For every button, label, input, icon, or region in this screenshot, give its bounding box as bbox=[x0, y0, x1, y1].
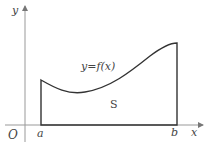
a-label: a bbox=[37, 128, 44, 139]
area-under-curve-diagram: y O a b x y=f(x) S bbox=[0, 0, 207, 147]
diagram-canvas bbox=[0, 0, 207, 147]
origin-label: O bbox=[8, 129, 18, 141]
b-label: b bbox=[171, 127, 178, 138]
x-axis-label: x bbox=[191, 127, 197, 138]
function-label: y=f(x) bbox=[81, 61, 115, 72]
region-s-boundary bbox=[41, 43, 177, 125]
y-axis-label: y bbox=[12, 5, 18, 16]
area-label: S bbox=[110, 99, 118, 110]
